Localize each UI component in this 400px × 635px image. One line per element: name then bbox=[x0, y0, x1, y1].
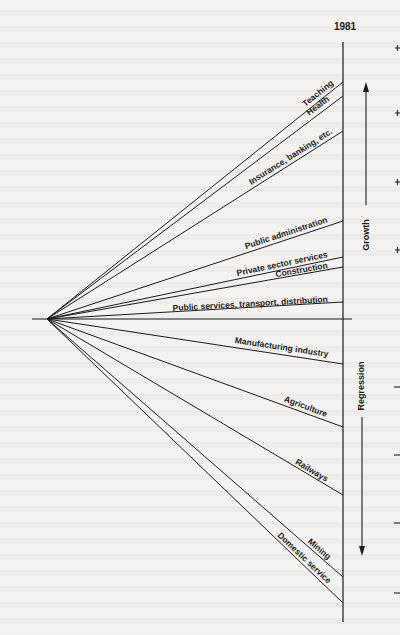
sector-label-public-services: Public services, transport, distribution bbox=[172, 294, 328, 313]
sector-label-public-administration: Public administration bbox=[243, 214, 328, 251]
margin-marks bbox=[394, 45, 400, 593]
sector-label-manufacturing: Manufacturing industry bbox=[234, 335, 329, 359]
growth-label: Growth bbox=[361, 219, 371, 251]
regression-label: Regression bbox=[356, 361, 366, 410]
sector-label-agriculture: Agriculture bbox=[283, 394, 329, 419]
sector-line-teaching bbox=[47, 82, 343, 319]
sector-line-health bbox=[47, 96, 343, 319]
sector-label-railways: Railways bbox=[294, 457, 331, 484]
diagram-canvas: 1981 Teaching Health Insurance, banking,… bbox=[0, 0, 400, 635]
sector-line-agriculture bbox=[47, 319, 343, 427]
growth-arrow-head-icon bbox=[363, 82, 369, 92]
regression-arrow-head-icon bbox=[359, 546, 365, 556]
sector-growth-diagram: 1981 Teaching Health Insurance, banking,… bbox=[0, 0, 400, 635]
sector-lines bbox=[47, 82, 343, 603]
year-label: 1981 bbox=[334, 21, 357, 32]
